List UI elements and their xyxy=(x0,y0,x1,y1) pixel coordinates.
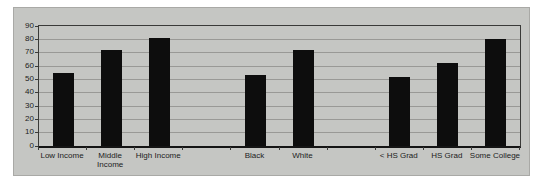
bar-chart: 0102030405060708090Low IncomeMiddle Inco… xyxy=(0,0,540,189)
y-axis-tick-mark xyxy=(35,66,38,67)
bar-black xyxy=(245,75,266,146)
y-axis-tick-mark xyxy=(35,106,38,107)
y-axis-tick-mark xyxy=(35,26,38,27)
bar-high-income xyxy=(149,38,170,146)
plot-area xyxy=(38,25,521,148)
y-axis-tick-label: 80 xyxy=(14,34,34,44)
bar-middle-income xyxy=(101,50,122,146)
y-axis-tick-label: 60 xyxy=(14,61,34,71)
x-axis-category-label: White xyxy=(273,151,333,160)
y-axis-tick-label: 50 xyxy=(14,74,34,84)
bar-some-college xyxy=(485,39,506,146)
y-axis-tick-mark xyxy=(35,92,38,93)
chart-area: 0102030405060708090Low IncomeMiddle Inco… xyxy=(13,7,530,176)
x-axis-tick-mark xyxy=(375,147,376,150)
y-axis-tick-label: 70 xyxy=(14,47,34,57)
x-axis-tick-mark xyxy=(519,147,520,150)
bar-low-income xyxy=(53,73,74,146)
y-axis-tick-mark xyxy=(35,132,38,133)
gridline-80 xyxy=(39,39,520,40)
y-axis-tick-label: 90 xyxy=(14,21,34,31)
x-axis-tick-mark xyxy=(230,147,231,150)
y-axis-tick-mark xyxy=(35,119,38,120)
x-axis-tick-mark xyxy=(38,147,39,150)
bar-<-hs-grad xyxy=(389,77,410,146)
x-axis-tick-mark xyxy=(327,147,328,150)
x-axis-tick-mark xyxy=(423,147,424,150)
x-axis-tick-mark xyxy=(471,147,472,150)
x-axis-tick-mark xyxy=(134,147,135,150)
y-axis-tick-label: 10 xyxy=(14,127,34,137)
x-axis-tick-mark xyxy=(182,147,183,150)
y-axis-tick-label: 30 xyxy=(14,101,34,111)
y-axis-tick-label: 40 xyxy=(14,87,34,97)
x-axis-category-label: Some College xyxy=(465,151,525,160)
y-axis-tick-mark xyxy=(35,79,38,80)
bar-hs-grad xyxy=(437,63,458,146)
x-axis-category-label: High Income xyxy=(128,151,188,160)
y-axis-tick-label: 0 xyxy=(14,141,34,151)
x-axis-tick-mark xyxy=(279,147,280,150)
y-axis-tick-mark xyxy=(35,39,38,40)
bar-white xyxy=(293,50,314,146)
y-axis-tick-label: 20 xyxy=(14,114,34,124)
x-axis-tick-mark xyxy=(86,147,87,150)
y-axis-tick-mark xyxy=(35,52,38,53)
